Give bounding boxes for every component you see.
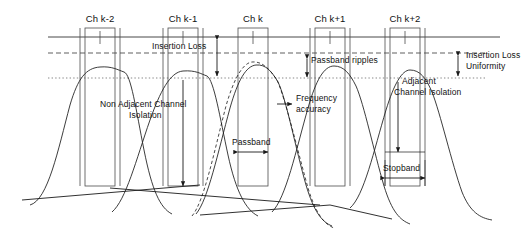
diagram-canvas: Ch k-2 Ch k-1 Ch k Ch k+1 Ch k+2 Inserti… <box>0 0 521 237</box>
passband-ripples-label: Passband ripples <box>311 55 378 65</box>
channel-label-ch-k-2: Ch k-2 <box>72 14 128 24</box>
frequency-accuracy-label-line1: Frequency <box>296 93 337 103</box>
baseline-skirts <box>22 185 392 219</box>
channel-label-ch-k: Ch k <box>226 14 280 24</box>
insertion-loss-label: Insertion Loss <box>152 41 206 51</box>
insertion-loss-uniformity-label-line2: Uniformity <box>466 61 505 71</box>
diagram-svg <box>0 0 521 237</box>
channel-label-ch-k-plus-1: Ch k+1 <box>302 14 358 24</box>
channel-label-ch-k-1: Ch k-1 <box>155 14 211 24</box>
stopband-label: Stopband <box>383 163 420 173</box>
frequency-accuracy-label-line2: accuracy <box>296 104 331 114</box>
non-adjacent-isolation-label-line1: Non Adjacent Channel <box>100 99 187 109</box>
channel-label-ch-k-plus-2: Ch k+2 <box>377 14 433 24</box>
insertion-loss-uniformity-label-line1: Insertion Loss <box>466 50 520 60</box>
adjacent-isolation-label-line2: Channel Isolation <box>394 87 461 97</box>
passband-label: Passband <box>232 137 271 147</box>
adjacent-isolation-label-line1: Adjacent <box>402 76 436 86</box>
non-adjacent-isolation-label-line2: Isolation <box>129 110 162 120</box>
